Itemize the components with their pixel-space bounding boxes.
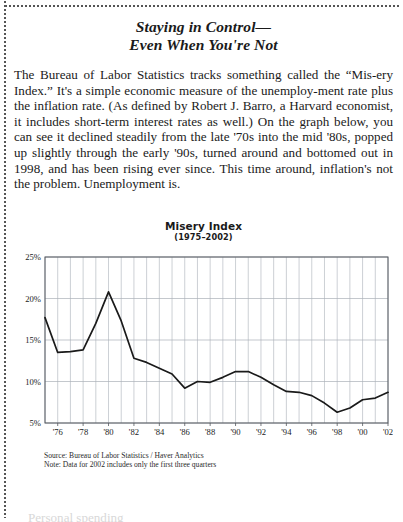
svg-text:'88: '88: [205, 427, 215, 437]
chart-title: Misery Index: [14, 220, 393, 232]
svg-text:15%: 15%: [25, 335, 41, 345]
article-page: Staying in Control— Even When You're Not…: [14, 0, 393, 518]
svg-text:'92: '92: [256, 427, 266, 437]
chart-footnotes: Source: Bureau of Labor Statistics / Hav…: [44, 451, 393, 470]
svg-text:'86: '86: [180, 427, 191, 437]
svg-text:'00: '00: [358, 427, 368, 437]
next-paragraph-fragment: Personal spending: [28, 510, 383, 522]
article-headline: Staying in Control— Even When You're Not: [14, 18, 393, 54]
svg-text:'90: '90: [230, 427, 240, 437]
svg-text:25%: 25%: [25, 252, 41, 262]
svg-text:'80: '80: [103, 427, 113, 437]
article-body-paragraph: The Bureau of Labor Statistics tracks so…: [14, 67, 393, 192]
chart-subtitle: (1975–2002): [14, 232, 393, 243]
headline-line-2: Even When You're Not: [14, 36, 393, 54]
svg-text:'96: '96: [307, 427, 318, 437]
chart-data-note: Note: Data for 2002 includes only the fi…: [44, 460, 393, 470]
chart-source-note: Source: Bureau of Labor Statistics / Hav…: [44, 451, 393, 461]
svg-text:'82: '82: [129, 427, 139, 437]
svg-text:'76: '76: [53, 427, 64, 437]
misery-index-chart: Misery Index (1975–2002) 25%20%15%10%5%'…: [14, 220, 393, 470]
headline-line-1: Staying in Control—: [136, 18, 271, 35]
svg-text:'78: '78: [78, 427, 88, 437]
svg-text:20%: 20%: [25, 293, 41, 303]
line-chart-svg: 25%20%15%10%5%'76'78'80'82'84'86'88'90'9…: [14, 247, 393, 447]
svg-text:'02: '02: [383, 427, 393, 437]
chart-plot-area: 25%20%15%10%5%'76'78'80'82'84'86'88'90'9…: [14, 247, 393, 447]
svg-text:'84: '84: [154, 427, 165, 437]
svg-text:'98: '98: [332, 427, 342, 437]
svg-text:'94: '94: [281, 427, 292, 437]
svg-text:10%: 10%: [25, 376, 41, 386]
page-edge-dots-left: [4, 0, 6, 518]
svg-text:5%: 5%: [30, 418, 41, 428]
